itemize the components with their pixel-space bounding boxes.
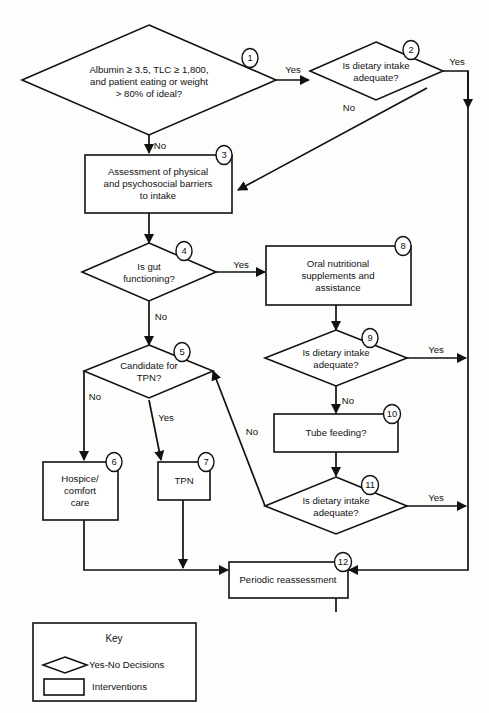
- node-12-intervention[interactable]: Periodic reassessment 12: [229, 553, 352, 599]
- key-title: Key: [105, 633, 122, 644]
- node-7-line-1: TPN: [174, 475, 193, 486]
- node-8-line-3: assistance: [315, 282, 360, 293]
- node-1-decision[interactable]: Albumin ≥ 3.5, TLC ≥ 1,800, and patient …: [22, 25, 276, 135]
- node-6-badge: 6: [111, 456, 116, 467]
- key-legend: Key Yes-No Decisions Interventions: [33, 623, 196, 701]
- node-10-line-1: Tube feeding?: [306, 427, 367, 438]
- node-6-line-2: comfort: [64, 485, 96, 496]
- edge-11-no-to-5: [213, 371, 265, 506]
- node-5-line-1: Candidate for: [120, 360, 178, 371]
- node-10-badge: 10: [387, 408, 397, 419]
- edge-label-2-yes: Yes: [449, 56, 465, 67]
- edge-label-4-yes: Yes: [233, 259, 249, 270]
- edge-2-yes-to-rail: [443, 71, 468, 108]
- edge-2-no-to-3: [238, 88, 427, 190]
- node-1-line-1: Albumin ≥ 3.5, TLC ≥ 1,800,: [89, 64, 208, 75]
- node-5-decision[interactable]: Candidate for TPN? 5: [84, 343, 213, 399]
- node-3-line-1: Assessment of physical: [108, 166, 208, 177]
- node-3-line-3: to intake: [140, 190, 176, 201]
- node-7-intervention[interactable]: TPN 7: [158, 453, 214, 501]
- node-9-badge: 9: [367, 332, 372, 343]
- node-12-badge: 12: [338, 556, 348, 567]
- node-6-intervention[interactable]: Hospice/ comfort care 6: [43, 453, 122, 521]
- node-11-decision[interactable]: Is dietary intake adequate? 11: [265, 476, 407, 535]
- node-1-line-2: and patient eating or weight: [90, 76, 208, 87]
- node-4-decision[interactable]: Is gut functioning? 4: [82, 242, 216, 302]
- node-6-line-3: care: [71, 497, 90, 508]
- node-10-intervention[interactable]: Tube feeding? 10: [274, 405, 401, 453]
- node-7-badge: 7: [203, 456, 208, 467]
- node-2-line-2: adequate?: [353, 72, 398, 83]
- edge-label-9-yes: Yes: [428, 344, 444, 355]
- node-11-badge: 11: [365, 479, 375, 490]
- node-11-line-1: Is dietary intake: [302, 495, 369, 506]
- node-8-line-1: Oral nutritional: [307, 258, 369, 269]
- edge-label-5-yes: Yes: [158, 412, 174, 423]
- node-9-line-2: adequate?: [313, 359, 358, 370]
- node-2-line-1: Is dietary intake: [342, 60, 409, 71]
- node-1-line-3: > 80% of ideal?: [116, 88, 182, 99]
- edge-6-to-12: [84, 520, 228, 570]
- node-2-badge: 2: [408, 44, 413, 55]
- key-intervention-label: Interventions: [92, 681, 147, 692]
- edge-label-9-no: No: [342, 395, 354, 406]
- node-6-line-1: Hospice/: [61, 473, 99, 484]
- node-1-badge: 1: [247, 52, 252, 63]
- node-4-line-1: Is gut: [137, 261, 161, 272]
- key-intervention-rect-icon: [44, 679, 84, 695]
- node-9-line-1: Is dietary intake: [302, 347, 369, 358]
- edge-label-5-no: No: [89, 391, 101, 402]
- node-8-line-2: supplements and: [301, 270, 374, 281]
- node-5-badge: 5: [179, 346, 184, 357]
- edge-label-4-no: No: [155, 311, 167, 322]
- node-8-badge: 8: [400, 240, 405, 251]
- edge-label-1-no: No: [154, 140, 166, 151]
- node-5-line-2: TPN?: [137, 372, 162, 383]
- node-8-intervention[interactable]: Oral nutritional supplements and assista…: [266, 237, 411, 306]
- node-11-line-2: adequate?: [313, 507, 358, 518]
- edge-label-2-no: No: [343, 102, 355, 113]
- node-3-badge: 3: [221, 149, 226, 160]
- flowchart-canvas: Albumin ≥ 3.5, TLC ≥ 1,800, and patient …: [0, 0, 489, 713]
- node-3-intervention[interactable]: Assessment of physical and psychosocial …: [85, 146, 232, 214]
- node-3-line-2: and psychosocial barriers: [104, 178, 213, 189]
- edge-label-11-yes: Yes: [428, 492, 444, 503]
- node-12-line-1: Periodic reassessment: [239, 574, 336, 585]
- edge-label-11-no: No: [246, 426, 258, 437]
- flowchart-diagram: Albumin ≥ 3.5, TLC ≥ 1,800, and patient …: [0, 0, 489, 713]
- edge-label-1-yes: Yes: [285, 64, 301, 75]
- node-9-decision[interactable]: Is dietary intake adequate? 9: [265, 329, 407, 387]
- connector-layer: [84, 71, 468, 612]
- node-4-badge: 4: [181, 245, 186, 256]
- key-decision-label: Yes-No Decisions: [89, 659, 165, 670]
- node-4-line-2: functioning?: [123, 273, 175, 284]
- edge-5-yes-to-7: [149, 400, 161, 460]
